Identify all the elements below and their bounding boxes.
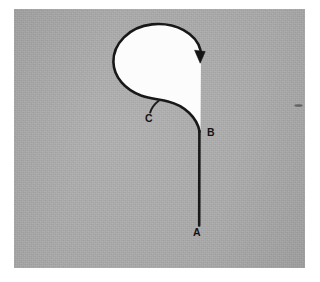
leader-line-c bbox=[150, 101, 159, 113]
loop-interior-region bbox=[113, 24, 201, 131]
label-c: C bbox=[145, 112, 153, 124]
curve-diagram: A B C bbox=[0, 0, 320, 282]
label-b: B bbox=[207, 126, 215, 138]
figure-root: A B C bbox=[0, 0, 320, 282]
scan-smudge-artifact bbox=[294, 104, 302, 107]
label-a: A bbox=[193, 226, 201, 238]
